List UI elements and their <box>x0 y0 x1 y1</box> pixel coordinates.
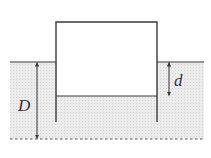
D-label: D <box>17 96 31 115</box>
d-label: d <box>174 71 183 90</box>
box-interior <box>57 23 157 96</box>
floating-box-diagram: D d <box>0 0 211 158</box>
